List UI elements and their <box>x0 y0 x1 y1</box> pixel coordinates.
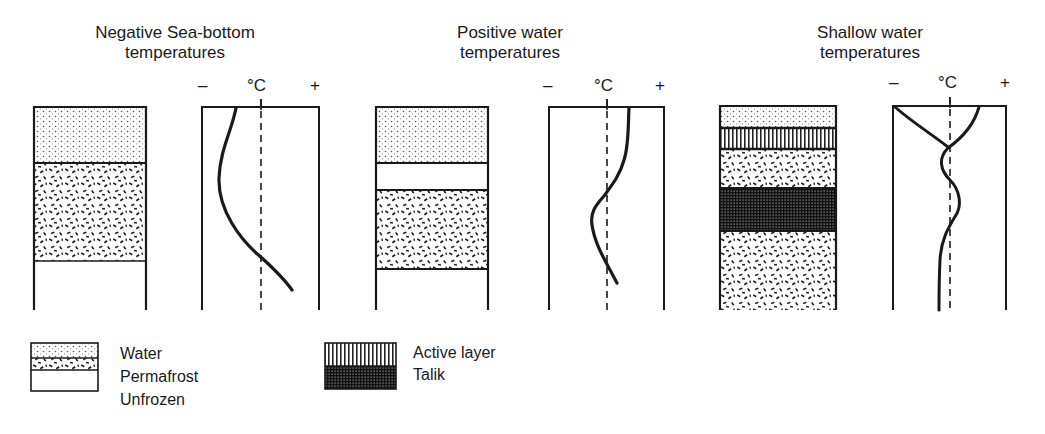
water-layer <box>34 107 146 163</box>
legend-talik-swatch <box>325 366 396 389</box>
maximum-temperature-curve <box>939 107 979 310</box>
temperature-curve <box>592 108 629 283</box>
legend-unfrozen-swatch <box>31 370 98 391</box>
legend-label-unfrozen: Unfrozen <box>120 391 185 409</box>
water-layer <box>376 107 488 163</box>
legend-permafrost-swatch <box>31 358 98 370</box>
legend-left-swatch <box>31 343 98 391</box>
unfrozen-layer <box>376 163 488 190</box>
permafrost-layer <box>720 231 836 310</box>
legend-right-swatch <box>325 343 396 389</box>
unfrozen-layer <box>376 269 488 310</box>
minimum-temperature-curve <box>895 107 948 147</box>
legend-label-talik: Talik <box>413 366 445 384</box>
permafrost-layer <box>720 149 836 188</box>
panel-2-strata-column <box>376 107 488 310</box>
legend-label-active-layer: Active layer <box>413 344 496 362</box>
active-layer <box>720 128 836 149</box>
legend-active-layer-swatch <box>325 343 396 366</box>
legend-water-swatch <box>31 343 98 358</box>
legend-label-water: Water <box>120 345 162 363</box>
panel-3-temperature-plot <box>893 97 1006 310</box>
talik-layer <box>720 188 836 231</box>
legend-label-permafrost: Permafrost <box>120 368 198 386</box>
panel-1-strata-column <box>34 107 146 310</box>
permafrost-layer <box>34 163 146 261</box>
water-layer <box>720 106 836 128</box>
panel-3-strata-column <box>720 106 836 310</box>
temperature-curve <box>219 108 292 290</box>
panel-1-temperature-plot <box>202 99 319 310</box>
permafrost-layer <box>376 190 488 269</box>
unfrozen-layer <box>34 261 146 310</box>
panel-2-temperature-plot <box>549 99 664 310</box>
